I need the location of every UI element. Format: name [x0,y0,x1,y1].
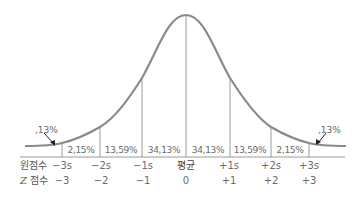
area-minus2-minus1: 13,59% [105,145,138,156]
z-minus-1: −1 [136,175,151,187]
z-letter: Z [20,175,27,186]
z-minus-2: −2 [94,175,109,187]
z-zero: 0 [183,175,189,187]
area-plus1-plus2: 13,59% [234,145,267,156]
raw-minus-2s: −2s [91,160,111,172]
left-tail-percent: ,13% [35,125,58,136]
z-plus-2: +2 [264,175,279,187]
area-minus1-mean: 34,13% [148,145,181,156]
z-plus-3: +3 [302,175,317,187]
z-score-row-title: Z 점수 [20,175,48,187]
raw-score-row-title: 원점수 [20,160,47,172]
right-tail-percent: ,13% [318,125,341,136]
z-score-label: 점수 [30,175,48,186]
raw-mean: 평균 [177,160,195,172]
z-plus-1: +1 [222,175,237,187]
area-mean-plus1: 34,13% [192,145,225,156]
raw-plus-2s: +2s [261,160,281,172]
raw-plus-3s: +3s [299,160,319,172]
raw-minus-1s: −1s [133,160,153,172]
area-plus2-plus3: 2,15% [276,145,303,156]
raw-minus-3s: −3s [52,160,72,172]
raw-plus-1s: +1s [219,160,239,172]
area-minus3-minus2: 2,15% [67,145,94,156]
z-minus-3: −3 [55,175,70,187]
